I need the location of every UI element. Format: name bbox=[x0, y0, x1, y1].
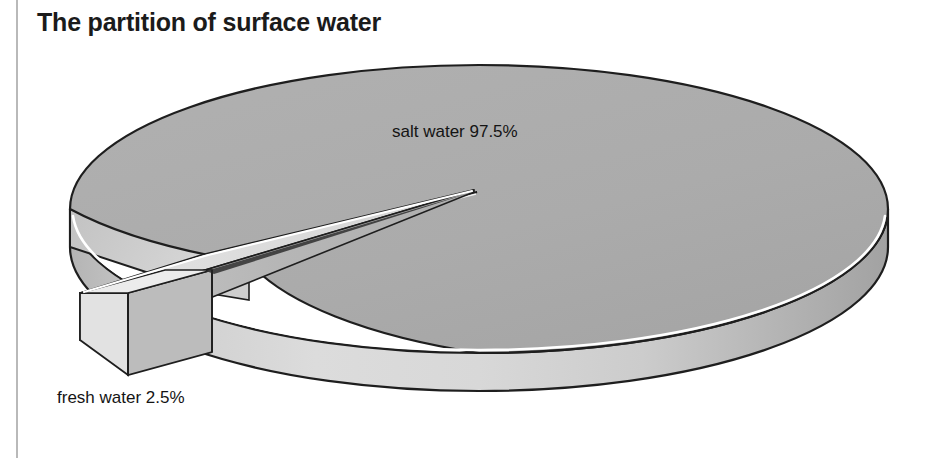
chart-figure: The partition of surface water bbox=[0, 0, 931, 458]
fresh-water-end-face bbox=[80, 293, 128, 375]
slice-label-salt-water: salt water 97.5% bbox=[392, 122, 518, 142]
slice-label-fresh-water: fresh water 2.5% bbox=[57, 388, 185, 408]
